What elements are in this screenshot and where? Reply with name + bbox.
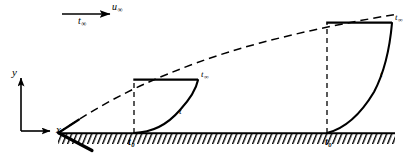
station-1-profile-label: t [179, 107, 182, 116]
station-2-profile-label: t [380, 70, 383, 79]
station-2-wall-temperature-label: t0 [325, 137, 331, 147]
thermal-boundary-layer-figure: u∞ t∞ y x t∞ t t0 t∞ t t0 [0, 0, 414, 159]
coordinate-axes [21, 78, 50, 131]
x-axis-label: x [56, 124, 61, 135]
station-2-freestream-temperature-label: t∞ [395, 13, 402, 22]
freestream-velocity-label: u∞ [112, 2, 122, 12]
y-axis-label: y [12, 67, 17, 78]
station-1-profile [133, 80, 198, 133]
thermal-boundary-layer-edge-curve [58, 14, 398, 133]
freestream-temperature-label: t∞ [78, 16, 86, 26]
station-1-freestream-temperature-label: t∞ [201, 70, 208, 79]
station-1-wall-temperature-label: t0 [128, 137, 134, 147]
station-1-temperature-profile [134, 80, 198, 133]
wall-hatching [58, 134, 395, 144]
